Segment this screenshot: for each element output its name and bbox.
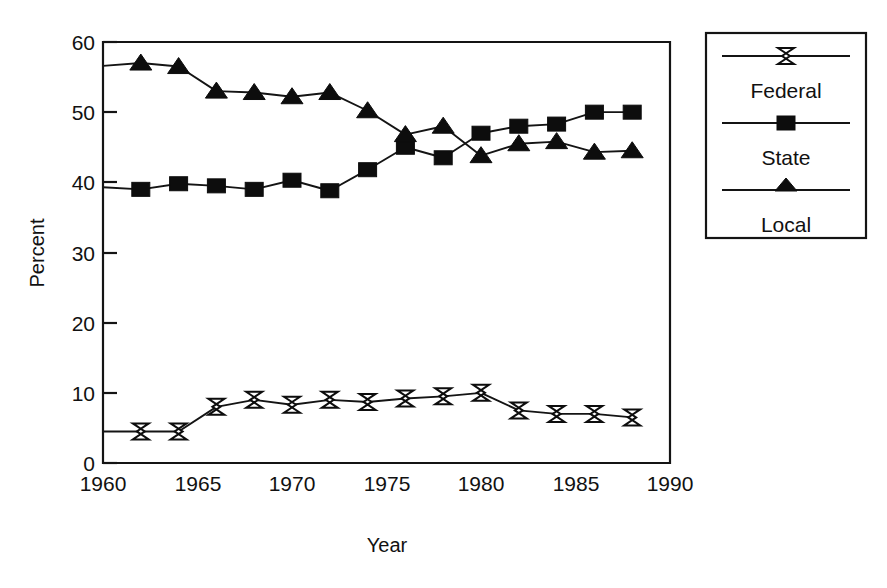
square-marker (510, 119, 528, 133)
chart-figure: 60 50 40 30 20 10 0 1960 1965 1970 1975 … (0, 0, 887, 588)
y-axis-tick-labels: 60 50 40 30 20 10 0 (72, 31, 95, 475)
square-marker (777, 116, 795, 130)
bowtie-marker (246, 392, 262, 408)
x-axis-tick-labels: 1960 1965 1970 1975 1980 1985 1990 (80, 472, 694, 495)
square-marker (132, 182, 150, 196)
bowtie-marker (284, 397, 300, 413)
square-marker (207, 179, 225, 193)
triangle-marker (621, 142, 643, 158)
bowtie-marker (778, 48, 794, 64)
bowtie-marker (549, 406, 565, 422)
triangle-marker (432, 117, 454, 133)
y-axis-ticks (103, 42, 117, 463)
bowtie-marker (171, 423, 187, 439)
square-marker (585, 105, 603, 119)
x-tick-label-1965: 1965 (175, 472, 222, 495)
legend-label-federal: Federal (750, 79, 821, 102)
legend: Federal State Local (706, 33, 866, 238)
bowtie-marker (473, 385, 489, 401)
triangle-marker (319, 84, 341, 100)
x-tick-label-1960: 1960 (80, 472, 127, 495)
square-marker (245, 182, 263, 196)
triangle-marker (130, 54, 152, 70)
bowtie-marker (397, 390, 413, 406)
y-tick-label-40: 40 (72, 171, 95, 194)
y-tick-label-10: 10 (72, 382, 95, 405)
line-chart-svg: 60 50 40 30 20 10 0 1960 1965 1970 1975 … (0, 0, 887, 588)
x-tick-label-1990: 1990 (647, 472, 694, 495)
square-marker (434, 151, 452, 165)
series-federal (103, 385, 640, 440)
x-tick-label-1970: 1970 (269, 472, 316, 495)
x-tick-label-1980: 1980 (458, 472, 505, 495)
bowtie-marker (133, 423, 149, 439)
y-tick-label-60: 60 (72, 31, 95, 54)
y-axis-title: Percent (26, 218, 48, 287)
bowtie-marker (322, 392, 338, 408)
square-marker (472, 126, 490, 140)
bowtie-marker (360, 394, 376, 410)
square-marker (623, 105, 641, 119)
square-marker (170, 177, 188, 191)
x-tick-label-1975: 1975 (364, 472, 411, 495)
square-marker (321, 184, 339, 198)
x-axis-title: Year (367, 534, 408, 556)
bowtie-marker (435, 388, 451, 404)
series-local (103, 54, 643, 163)
bowtie-marker (208, 399, 224, 415)
triangle-marker (546, 133, 568, 149)
square-marker (396, 140, 414, 154)
triangle-marker (357, 102, 379, 118)
legend-label-local: Local (761, 213, 811, 236)
triangle-marker (205, 82, 227, 98)
legend-label-state: State (761, 146, 810, 169)
data-series-layer (103, 54, 643, 439)
y-tick-label-30: 30 (72, 242, 95, 265)
square-marker (359, 163, 377, 177)
series-state (103, 105, 641, 198)
bowtie-marker (586, 406, 602, 422)
square-marker (548, 117, 566, 131)
x-tick-label-1985: 1985 (553, 472, 600, 495)
bowtie-marker (624, 409, 640, 425)
y-tick-label-20: 20 (72, 312, 95, 335)
y-tick-label-50: 50 (72, 101, 95, 124)
bowtie-marker (511, 402, 527, 418)
square-marker (283, 173, 301, 187)
